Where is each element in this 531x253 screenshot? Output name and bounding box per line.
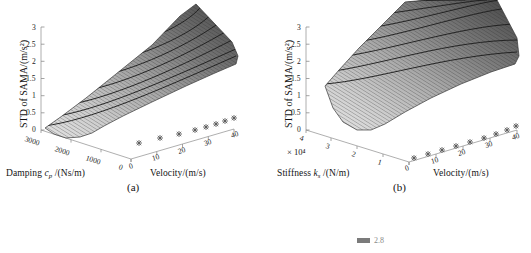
x-axis-label-b-pre: Stiffness	[277, 168, 313, 178]
z-tick-a-3: 3	[32, 23, 36, 32]
subplot-a: 3 2.5 2 1.5 1 0.5 0 3000 2000 1000 0 0 1…	[0, 0, 265, 200]
x-axis-label-b-post: /(N/m)	[321, 168, 350, 178]
surface-mesh-a	[44, 2, 238, 138]
z-tick-a-1: 1	[32, 91, 36, 100]
x-axis-ticks-b	[306, 130, 409, 165]
subplot-caption-a: (a)	[127, 181, 139, 193]
z-tick-b-1: 1	[297, 91, 301, 100]
z-axis-label-a: STD of SAMA/(m/s²)	[18, 40, 29, 128]
z-tick-b-2: 2	[297, 57, 301, 66]
subplot-b: 3 2.5 2 1.5 1 0.5 0 4 3 2 1 0 10 20 30 4…	[265, 0, 531, 200]
z-axis-label-b-text: STD of SAMA/(m/s²)	[283, 40, 294, 128]
figure-container: 3 2.5 2 1.5 1 0.5 0 3000 2000 1000 0 0 1…	[0, 0, 531, 253]
z-axis-label-b: STD of SAMA/(m/s²)	[283, 40, 294, 128]
subplot-caption-b: (b)	[393, 181, 406, 193]
y-axis-label-b: Velocity/(m/s)	[433, 168, 489, 178]
x-axis-label-a-post: /(Ns/m)	[52, 168, 85, 178]
stray-legend-fragment: 2.8	[357, 236, 384, 245]
x-axis-label-a: Damping cp /(Ns/m)	[6, 168, 85, 179]
z-axis-label-a-text: STD of SAMA/(m/s²)	[18, 40, 29, 128]
x-axis-label-a-pre: Damping	[6, 168, 45, 178]
z-axis-ticks-a	[41, 27, 45, 130]
z-tick-a-2: 2	[32, 57, 36, 66]
base-plane-markers-a	[136, 115, 237, 146]
surface-mesh-b	[325, 0, 519, 130]
legend-color-swatch	[357, 238, 370, 243]
legend-value-label: 2.8	[374, 236, 384, 245]
x-axis-label-b: Stiffness ks /(N/m)	[277, 168, 350, 179]
y-axis-label-a: Velocity/(m/s)	[150, 168, 206, 178]
z-tick-b-3: 3	[297, 23, 301, 32]
z-axis-ticks-b	[306, 27, 310, 130]
z-tick-a-0: 0	[32, 125, 36, 134]
x-axis-multiplier-b: × 10⁴	[287, 147, 306, 157]
